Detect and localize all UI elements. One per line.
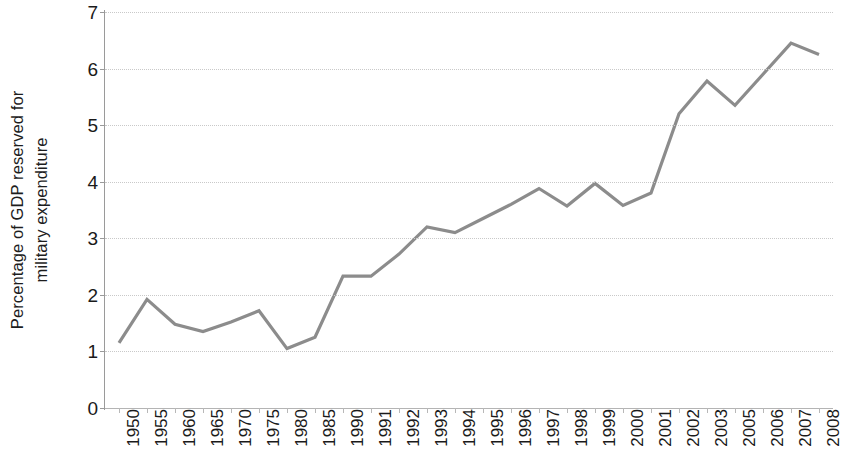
x-tick-label-2005: 2005 bbox=[741, 409, 758, 471]
x-tick-label-1980: 1980 bbox=[293, 409, 310, 471]
y-tick-label-7: 7 bbox=[64, 3, 98, 22]
y-tick-label-4: 4 bbox=[64, 172, 98, 191]
x-tick-label-1996: 1996 bbox=[517, 409, 534, 471]
data-line bbox=[105, 12, 833, 408]
x-tick-label-2000: 2000 bbox=[629, 409, 646, 471]
y-tick-label-1: 1 bbox=[64, 342, 98, 361]
x-tick-label-2006: 2006 bbox=[769, 409, 786, 471]
x-tick-label-1993: 1993 bbox=[433, 409, 450, 471]
x-tick-label-1998: 1998 bbox=[573, 409, 590, 471]
x-tick-label-1985: 1985 bbox=[321, 409, 338, 471]
x-tick-label-1994: 1994 bbox=[461, 409, 478, 471]
y-tick-mark-5 bbox=[100, 125, 105, 126]
gridline-y-4 bbox=[105, 182, 833, 183]
x-tick-label-2001: 2001 bbox=[657, 409, 674, 471]
x-tick-label-2008: 2008 bbox=[825, 409, 842, 471]
gridline-y-7 bbox=[105, 12, 833, 13]
y-tick-mark-1 bbox=[100, 351, 105, 352]
y-tick-label-0: 0 bbox=[64, 399, 98, 418]
x-tick-label-2002: 2002 bbox=[685, 409, 702, 471]
x-tick-label-1990: 1990 bbox=[349, 409, 366, 471]
x-tick-label-1997: 1997 bbox=[545, 409, 562, 471]
x-tick-label-1995: 1995 bbox=[489, 409, 506, 471]
x-tick-label-1965: 1965 bbox=[209, 409, 226, 471]
x-tick-label-1991: 1991 bbox=[377, 409, 394, 471]
y-tick-mark-2 bbox=[100, 295, 105, 296]
gridline-y-1 bbox=[105, 351, 833, 352]
gridline-y-6 bbox=[105, 69, 833, 70]
y-tick-mark-0 bbox=[100, 408, 105, 409]
x-tick-label-1970: 1970 bbox=[237, 409, 254, 471]
gridline-y-3 bbox=[105, 238, 833, 239]
y-axis-title-line-2: military expenditure bbox=[30, 91, 54, 329]
y-tick-mark-7 bbox=[100, 12, 105, 13]
x-tick-label-1999: 1999 bbox=[601, 409, 618, 471]
gridline-y-2 bbox=[105, 295, 833, 296]
y-axis-tick-labels: 01234567 bbox=[56, 0, 98, 475]
x-tick-label-1950: 1950 bbox=[125, 409, 142, 471]
y-tick-label-5: 5 bbox=[64, 116, 98, 135]
x-tick-label-1960: 1960 bbox=[181, 409, 198, 471]
y-tick-label-2: 2 bbox=[64, 285, 98, 304]
y-tick-mark-6 bbox=[100, 69, 105, 70]
x-tick-label-1992: 1992 bbox=[405, 409, 422, 471]
y-axis-title: Percentage of GDP reserved for military … bbox=[0, 0, 60, 420]
x-tick-label-1975: 1975 bbox=[265, 409, 282, 471]
x-axis-tick-labels: 1950195519601965197019751980198519901991… bbox=[105, 413, 833, 475]
y-tick-mark-4 bbox=[100, 182, 105, 183]
x-tick-label-2007: 2007 bbox=[797, 409, 814, 471]
y-tick-label-6: 6 bbox=[64, 59, 98, 78]
x-tick-label-1955: 1955 bbox=[153, 409, 170, 471]
y-axis-title-line-1: Percentage of GDP reserved for bbox=[8, 91, 26, 329]
x-tick-label-2003: 2003 bbox=[713, 409, 730, 471]
plot-area bbox=[105, 12, 833, 408]
y-tick-mark-3 bbox=[100, 238, 105, 239]
y-tick-label-3: 3 bbox=[64, 229, 98, 248]
gridline-y-5 bbox=[105, 125, 833, 126]
